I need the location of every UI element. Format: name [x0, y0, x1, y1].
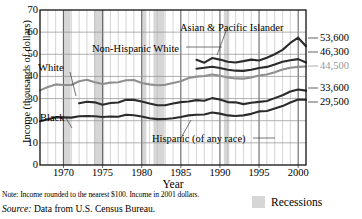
recessions-legend: Recessions: [252, 196, 322, 208]
x-tick-label: 1995: [239, 167, 279, 178]
source-text: Data from U.S. Census Bureau.: [34, 203, 155, 214]
end-value-asian-pacific-islander: 53,600: [320, 32, 349, 43]
x-tick-label: 1990: [200, 167, 240, 178]
x-tick-label: 1975: [83, 167, 123, 178]
series-line: [79, 89, 306, 105]
chart-source: Source: Data from U.S. Census Bureau.: [2, 203, 155, 214]
x-tick-label: 2000: [278, 167, 318, 178]
series-label-asian-pacific-islander: Asian & Pacific Islander: [180, 22, 284, 33]
series-label-white: White: [38, 62, 64, 73]
end-value-white: 44,500: [320, 60, 349, 71]
end-value-black: 29,500: [320, 96, 349, 107]
recessions-legend-label: Recessions: [271, 196, 322, 208]
series-label-hispanic: Hispanic (of any race): [152, 133, 246, 144]
end-value-hispanic: 33,600: [320, 82, 349, 93]
source-prefix: Source:: [2, 203, 31, 214]
x-tick-label: 1980: [122, 167, 162, 178]
x-axis-title: Year: [40, 178, 306, 190]
x-tick-label: 1970: [43, 167, 83, 178]
series-label-non-hispanic-white: Non-Hispanic White: [92, 43, 179, 54]
recession-color-swatch: [252, 196, 265, 208]
chart-note: Note: Income rounded to the nearest $100…: [2, 190, 199, 199]
series-label-black: Black: [40, 112, 65, 123]
end-value-non-hispanic-white: 46,300: [320, 46, 349, 57]
recession-band: [142, 10, 147, 165]
chart-figure: Income (thousands of dollars) 7060504030…: [0, 0, 362, 219]
x-tick-label: 1985: [161, 167, 201, 178]
